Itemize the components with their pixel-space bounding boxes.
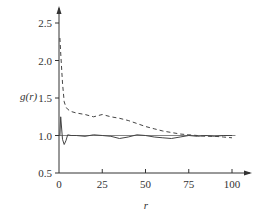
- y-tick-label: 2.0: [38, 55, 52, 67]
- y-tick-label: 1.5: [38, 92, 52, 104]
- x-tick-label: 75: [183, 178, 195, 190]
- x-tick-label: 100: [224, 178, 241, 190]
- series-layer: [60, 38, 232, 145]
- series-solid-line: [60, 117, 232, 145]
- axes: [57, 6, 253, 176]
- x-tick-label: 25: [97, 178, 109, 190]
- y-tick-label: 0.5: [38, 167, 52, 179]
- x-axis-title: r: [144, 199, 149, 211]
- ticks: 0.51.01.52.02.50255075100: [38, 17, 241, 190]
- y-tick-label: 1.0: [38, 130, 52, 142]
- x-axis-arrow-icon: [244, 171, 252, 176]
- y-axis-title: g(r): [20, 90, 37, 103]
- series-dashed-line: [60, 38, 232, 138]
- line-chart: 0.51.01.52.02.50255075100 g(r) r: [0, 0, 263, 213]
- y-axis-arrow-icon: [57, 6, 62, 14]
- x-tick-label: 50: [140, 178, 152, 190]
- chart-figure: 0.51.01.52.02.50255075100 g(r) r: [0, 0, 263, 213]
- x-tick-label: 0: [56, 178, 62, 190]
- y-tick-label: 2.5: [38, 17, 52, 29]
